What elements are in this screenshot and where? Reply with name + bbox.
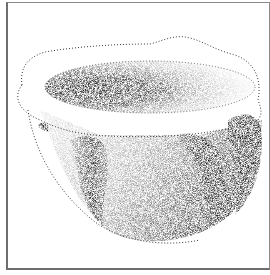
mortar-bowl-illustration: [0, 0, 270, 275]
bowl-body: [40, 110, 262, 241]
bowl-cavity: [45, 61, 255, 113]
